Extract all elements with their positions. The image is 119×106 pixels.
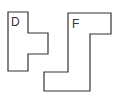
shape-f: F — [44, 13, 111, 91]
shape-d: D — [8, 12, 48, 71]
shape-f-label: F — [72, 17, 79, 31]
shape-d-label: D — [11, 15, 20, 29]
diagram-canvas: D F — [0, 0, 119, 106]
